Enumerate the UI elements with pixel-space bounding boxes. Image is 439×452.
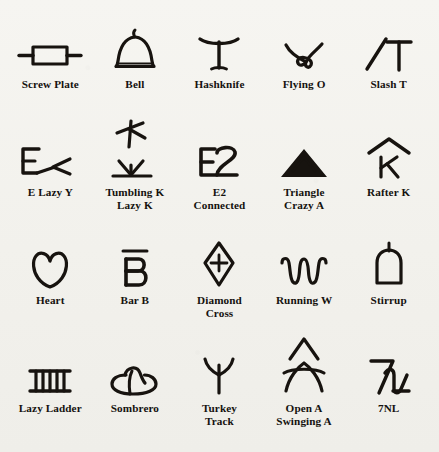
brand-cell-slash-t[interactable]: Slash T	[347, 14, 431, 91]
sevennl-brand-icon	[347, 338, 431, 400]
bar-b-brand-icon	[93, 230, 177, 292]
brand-label: Diamond Cross	[197, 294, 242, 320]
brand-chart: Screw Plate Bell Hashknife	[0, 0, 439, 452]
diamond-cross-brand-icon	[177, 230, 261, 292]
rafter-k-brand-icon	[347, 122, 431, 184]
brand-label: Bar B	[121, 294, 150, 307]
brand-cell-flying-o[interactable]: Flying O	[262, 14, 346, 91]
lazy-ladder-brand-icon	[8, 338, 92, 400]
brand-label: Flying O	[283, 78, 326, 91]
brand-row: Lazy Ladder Sombrero Turkey Track	[8, 338, 431, 446]
heart-brand-icon	[8, 230, 92, 292]
brand-row: Screw Plate Bell Hashknife	[8, 14, 431, 122]
slash-t-brand-icon	[347, 14, 431, 76]
brand-label: Lazy Ladder	[19, 402, 82, 415]
brand-cell-e2-connected[interactable]: E2 Connected	[177, 122, 261, 212]
brand-label: Screw Plate	[22, 78, 79, 91]
brand-cell-lazy-ladder[interactable]: Lazy Ladder	[8, 338, 92, 415]
hashknife-brand-icon	[177, 14, 261, 76]
brand-label: Tumbling K Lazy K	[106, 186, 165, 212]
brand-cell-triangle-crazy-a[interactable]: Triangle Crazy A	[262, 122, 346, 212]
sombrero-brand-icon	[93, 338, 177, 400]
brand-cell-hashknife[interactable]: Hashknife	[177, 14, 261, 91]
bell-brand-icon	[93, 14, 177, 76]
brand-cell-diamond-cross[interactable]: Diamond Cross	[177, 230, 261, 320]
brand-cell-screw-plate[interactable]: Screw Plate	[8, 14, 92, 91]
e-lazy-y-brand-icon	[8, 122, 92, 184]
stirrup-brand-icon	[347, 230, 431, 292]
brand-label: Sombrero	[111, 402, 159, 415]
brand-cell-sombrero[interactable]: Sombrero	[93, 338, 177, 415]
brand-label: Bell	[125, 78, 144, 91]
brand-label: Triangle Crazy A	[284, 186, 325, 212]
brand-cell-heart[interactable]: Heart	[8, 230, 92, 307]
tumbling-k-lazy-k-brand-icon	[93, 122, 177, 184]
brand-label: Heart	[36, 294, 64, 307]
brand-cell-stirrup[interactable]: Stirrup	[347, 230, 431, 307]
e2-connected-brand-icon	[177, 122, 261, 184]
brand-cell-turkey-track[interactable]: Turkey Track	[177, 338, 261, 428]
brand-label: Open A Swinging A	[276, 402, 331, 428]
brand-label: 7NL	[378, 402, 399, 415]
running-w-brand-icon	[262, 230, 346, 292]
brand-cell-open-a-swinging-a[interactable]: Open A Swinging A	[262, 338, 346, 428]
brand-cell-bell[interactable]: Bell	[93, 14, 177, 91]
brand-cell-tumbling-k-lazy-k[interactable]: Tumbling K Lazy K	[93, 122, 177, 212]
brand-label: Hashknife	[194, 78, 244, 91]
brand-row: E Lazy Y Tumbling K Lazy K	[8, 122, 431, 230]
brand-label: E Lazy Y	[28, 186, 73, 199]
open-a-swinging-a-brand-icon	[262, 338, 346, 400]
triangle-crazy-a-brand-icon	[262, 122, 346, 184]
brand-row: Heart Bar B Diamond Cross	[8, 230, 431, 338]
brand-label: Running W	[276, 294, 332, 307]
flying-o-brand-icon	[262, 14, 346, 76]
brand-cell-running-w[interactable]: Running W	[262, 230, 346, 307]
brand-cell-7nl[interactable]: 7NL	[347, 338, 431, 415]
brand-label: Slash T	[371, 78, 407, 91]
brand-cell-bar-b[interactable]: Bar B	[93, 230, 177, 307]
turkey-track-brand-icon	[177, 338, 261, 400]
brand-label: Turkey Track	[202, 402, 237, 428]
brand-label: Rafter K	[367, 186, 410, 199]
brand-cell-rafter-k[interactable]: Rafter K	[347, 122, 431, 199]
screw-plate-brand-icon	[8, 14, 92, 76]
brand-cell-e-lazy-y[interactable]: E Lazy Y	[8, 122, 92, 199]
brand-label: Stirrup	[371, 294, 407, 307]
brand-label: E2 Connected	[194, 186, 246, 212]
